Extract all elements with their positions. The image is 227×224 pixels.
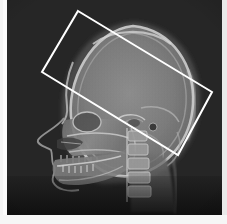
radiograph-plate bbox=[7, 0, 222, 216]
radiograph-viewer bbox=[0, 0, 227, 224]
page-margin-right bbox=[222, 0, 227, 224]
roi-rectangle-overlay[interactable] bbox=[7, 0, 222, 216]
page-margin-bottom bbox=[0, 215, 227, 224]
page-margin-left bbox=[3, 0, 7, 224]
roi-rectangle[interactable] bbox=[42, 11, 212, 155]
